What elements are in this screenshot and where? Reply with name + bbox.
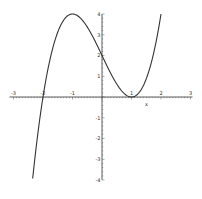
y-tick-label: 2 <box>97 52 100 58</box>
x-tick-label: -1 <box>70 90 75 96</box>
x-tick-label: 1 <box>130 90 133 96</box>
function-plot: -3-2-11234321-1-2-3-4x <box>0 0 202 199</box>
x-tick-label: 3 <box>189 90 192 96</box>
y-tick-label: -3 <box>96 156 101 162</box>
y-tick-label: -4 <box>96 177 101 183</box>
x-tick-label: -3 <box>11 90 16 96</box>
y-tick-label: 4 <box>97 11 100 17</box>
y-tick-label: 1 <box>97 73 100 79</box>
y-tick-label: -1 <box>96 115 101 121</box>
x-tick-label: 2 <box>159 90 162 96</box>
axes <box>10 14 193 180</box>
function-curve <box>33 14 161 179</box>
x-axis-label: x <box>145 101 148 107</box>
x-tick-label: -2 <box>41 90 46 96</box>
y-tick-label: -2 <box>96 135 101 141</box>
curve <box>33 14 161 179</box>
y-tick-label: 3 <box>97 32 100 38</box>
